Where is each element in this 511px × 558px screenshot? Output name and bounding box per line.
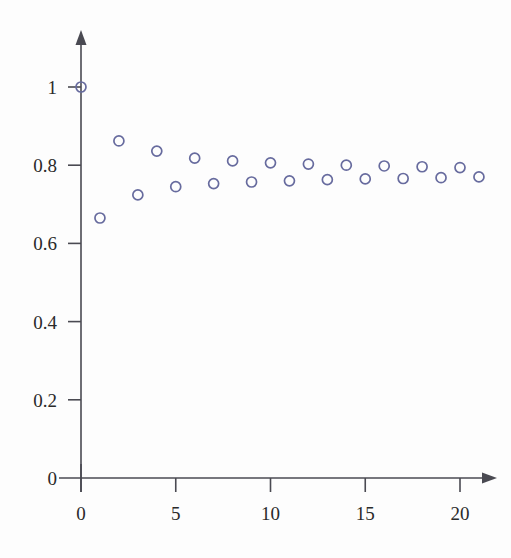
- data-point-marker: [266, 158, 276, 168]
- x-axis-arrow-icon: [482, 473, 497, 484]
- x-tick-label: 20: [451, 504, 470, 523]
- data-point-marker: [341, 160, 351, 170]
- data-point-marker: [95, 213, 105, 223]
- y-tick-label: 0: [48, 469, 58, 488]
- x-tick-label: 10: [261, 504, 280, 523]
- y-tick-label: 0.2: [33, 390, 57, 409]
- x-tick-label: 0: [76, 504, 86, 523]
- data-point-marker: [398, 173, 408, 183]
- data-point-marker: [114, 136, 124, 146]
- data-point-marker: [379, 161, 389, 171]
- data-point-marker: [247, 177, 257, 187]
- data-point-marker: [436, 173, 446, 183]
- x-tick-label: 5: [171, 504, 181, 523]
- data-point-marker: [133, 190, 143, 200]
- y-tick-label: 0.4: [33, 312, 57, 331]
- y-tick-label: 1: [48, 78, 58, 97]
- data-point-marker: [171, 182, 181, 192]
- x-axis: [59, 473, 497, 484]
- data-point-marker: [228, 156, 238, 166]
- data-point-marker: [417, 162, 427, 172]
- scatter-chart: 00.20.40.60.81 05101520: [0, 0, 511, 558]
- y-tick-label: 0.8: [33, 156, 57, 175]
- y-axis: [76, 30, 87, 492]
- data-point-marker: [152, 146, 162, 156]
- data-point-marker: [303, 159, 313, 169]
- data-point-marker: [360, 174, 370, 184]
- data-point-marker: [474, 172, 484, 182]
- plot-area: [0, 0, 511, 558]
- x-tick-label: 15: [356, 504, 375, 523]
- y-axis-arrow-icon: [76, 30, 87, 45]
- data-point-marker: [455, 163, 465, 173]
- data-point-marker: [284, 176, 294, 186]
- data-point-marker: [209, 179, 219, 189]
- data-point-marker: [322, 175, 332, 185]
- data-series: [76, 82, 484, 223]
- y-axis-ticks: [68, 87, 81, 400]
- y-tick-label: 0.6: [33, 234, 57, 253]
- data-point-marker: [190, 153, 200, 163]
